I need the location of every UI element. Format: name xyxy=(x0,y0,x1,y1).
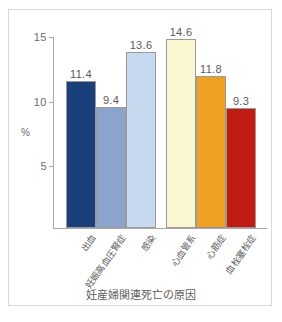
category-label-shinkekkankei: 心血管系 xyxy=(167,232,198,269)
category-label-shukketsu: 出血 xyxy=(78,232,99,254)
bar-value-label: 13.6 xyxy=(130,39,153,51)
bar-shinkekkankei[interactable]: 14.6 xyxy=(166,39,196,228)
bar-value-label: 14.6 xyxy=(170,26,193,38)
y-axis-title: % xyxy=(21,127,30,138)
bar-kansen[interactable]: 13.6 xyxy=(126,52,156,228)
chart-frame: % 15 10 5 11.4 9 xyxy=(8,9,272,306)
y-axis-line xyxy=(53,37,54,228)
bar-value-label: 11.4 xyxy=(70,68,92,80)
bar-kessensokusensho[interactable]: 9.3 xyxy=(226,108,256,228)
x-axis-title: 妊産婦関連死亡の原因 xyxy=(0,286,282,302)
y-tick-mark xyxy=(49,102,53,103)
category-label-shinkinsho: 心筋症 xyxy=(203,232,229,262)
bar-value-label: 9.3 xyxy=(233,95,249,107)
bar-shukketsu[interactable]: 11.4 xyxy=(66,81,96,228)
y-tick-label: 10 xyxy=(34,96,47,108)
bar-value-label: 9.4 xyxy=(103,94,119,106)
y-tick-mark xyxy=(49,37,53,38)
category-label-kansen: 感染 xyxy=(138,232,159,254)
y-tick-mark xyxy=(49,166,53,167)
bar-shinkinsho[interactable]: 11.8 xyxy=(196,76,226,228)
y-tick-label: 15 xyxy=(34,31,47,43)
bar-ninshin-koketsuatsu-jinsho[interactable]: 9.4 xyxy=(96,107,126,228)
x-axis-line xyxy=(53,228,267,229)
chart-card: % 15 10 5 11.4 9 xyxy=(0,0,282,322)
bar-value-label: 11.8 xyxy=(200,63,222,75)
y-tick-label: 5 xyxy=(40,160,47,172)
plot-area: 15 10 5 11.4 9.4 13.6 xyxy=(53,32,267,228)
